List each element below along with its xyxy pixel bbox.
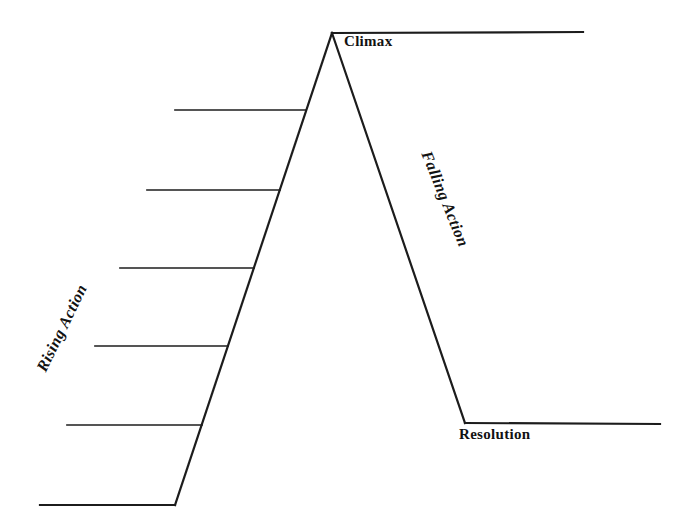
climax-label: Climax bbox=[344, 34, 392, 49]
plot-structure-diagram: Climax Rising Action Falling Action Reso… bbox=[0, 0, 690, 532]
resolution-label: Resolution bbox=[459, 427, 530, 442]
rising-action-line bbox=[175, 33, 332, 505]
plot-diagram-lines bbox=[0, 0, 690, 532]
falling-action-line bbox=[332, 33, 465, 423]
resolution-line bbox=[465, 423, 660, 424]
